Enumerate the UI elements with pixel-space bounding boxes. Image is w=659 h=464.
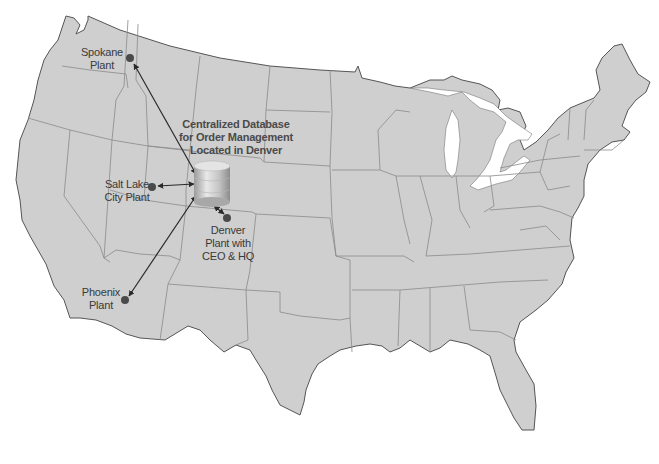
database-label-line-1: Centralized Database bbox=[176, 118, 296, 131]
salt-lake-label-line-2: City Plant bbox=[102, 191, 152, 204]
plant-marker-denver[interactable] bbox=[223, 214, 231, 222]
phoenix-plant-label: Phoenix Plant bbox=[80, 286, 122, 312]
database-cylinder-icon[interactable] bbox=[194, 161, 230, 207]
plant-marker-spokane[interactable] bbox=[126, 54, 134, 62]
phoenix-label-line-2: Plant bbox=[80, 299, 122, 312]
spokane-label-line-1: Spokane bbox=[78, 46, 126, 59]
database-label: Centralized Database for Order Managemen… bbox=[176, 118, 296, 157]
plant-marker-phoenix[interactable] bbox=[121, 296, 129, 304]
spokane-label-line-2: Plant bbox=[78, 59, 126, 72]
salt-lake-city-plant-label: Salt Lake City Plant bbox=[102, 178, 152, 204]
denver-label-line-3: CEO & HQ bbox=[202, 250, 254, 263]
us-mainland-outline bbox=[16, 16, 650, 430]
spokane-plant-label: Spokane Plant bbox=[78, 46, 126, 72]
salt-lake-label-line-1: Salt Lake bbox=[102, 178, 152, 191]
denver-label-line-2: Plant with bbox=[202, 237, 254, 250]
database-label-line-2: for Order Management bbox=[176, 131, 296, 144]
database-label-line-3: Located in Denver bbox=[176, 144, 296, 157]
phoenix-label-line-1: Phoenix bbox=[80, 286, 122, 299]
denver-plant-label: Denver Plant with CEO & HQ bbox=[202, 224, 254, 263]
denver-label-line-1: Denver bbox=[202, 224, 254, 237]
